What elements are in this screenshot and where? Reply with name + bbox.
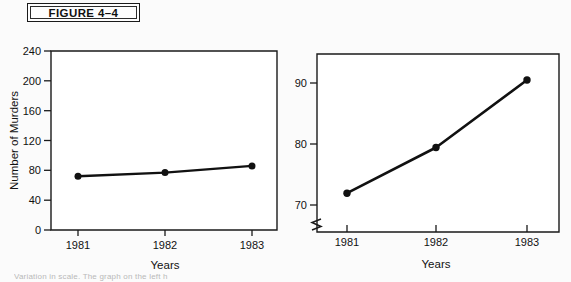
- right-x-axis-title: Years: [422, 258, 451, 270]
- right-ytick-label-70: 70: [295, 199, 307, 211]
- right-xtick-label-1981: 1981: [335, 236, 359, 248]
- left-ytick-label-160: 160: [23, 105, 41, 117]
- right-chart-svg: 90 80 70 Number of Murders 1981 1982 198…: [290, 30, 571, 282]
- right-x-tick-labels: 1981 1982 1983: [335, 236, 539, 248]
- left-chart-svg: 240 200 160 120 80 40 0 Number of Murder…: [0, 30, 290, 282]
- left-xtick-label-1983: 1983: [240, 239, 264, 251]
- left-ytick-label-0: 0: [35, 224, 41, 236]
- right-xtick-label-1983: 1983: [515, 236, 539, 248]
- left-ytick-label-120: 120: [23, 135, 41, 147]
- right-plot-frame: [317, 54, 559, 232]
- left-x-ticks: [78, 230, 252, 236]
- left-data-point-1981: [75, 173, 82, 180]
- left-ytick-label-240: 240: [23, 45, 41, 57]
- left-y-ticks: [44, 51, 51, 230]
- chart-panel-right: 90 80 70 Number of Murders 1981 1982 198…: [290, 30, 571, 282]
- right-xtick-label-1982: 1982: [424, 236, 448, 248]
- right-y-ticks: [310, 83, 317, 205]
- right-data-point-1981: [343, 190, 350, 197]
- figure-caption-partial: Variation in scale. The graph on the lef…: [14, 272, 168, 282]
- left-frame-rect: [51, 51, 277, 230]
- right-y-tick-labels: 90 80 70: [295, 77, 307, 211]
- left-xtick-label-1981: 1981: [66, 239, 90, 251]
- left-y-axis-title: Number of Murders: [8, 91, 20, 190]
- right-ytick-label-80: 80: [295, 138, 307, 150]
- figure-page: FIGURE 4–4 240 200 160: [0, 0, 571, 282]
- figure-label-box: FIGURE 4–4: [27, 3, 140, 22]
- left-y-tick-labels: 240 200 160 120 80 40 0: [23, 45, 41, 236]
- left-x-tick-labels: 1981 1982 1983: [66, 239, 264, 251]
- chart-panel-left: 240 200 160 120 80 40 0 Number of Murder…: [0, 30, 290, 282]
- right-data-point-1983: [523, 76, 530, 83]
- right-data-point-1982: [432, 144, 439, 151]
- left-ytick-label-40: 40: [29, 194, 41, 206]
- left-x-axis-title: Years: [151, 259, 180, 271]
- left-data-point-1983: [249, 162, 256, 169]
- right-ytick-label-90: 90: [295, 77, 307, 89]
- figure-label-text: FIGURE 4–4: [28, 7, 139, 19]
- right-frame-rect: [317, 54, 559, 232]
- left-plot-frame: [51, 51, 277, 230]
- left-xtick-label-1982: 1982: [153, 239, 177, 251]
- left-ytick-label-80: 80: [29, 164, 41, 176]
- left-data-point-1982: [162, 169, 169, 176]
- left-ytick-label-200: 200: [23, 75, 41, 87]
